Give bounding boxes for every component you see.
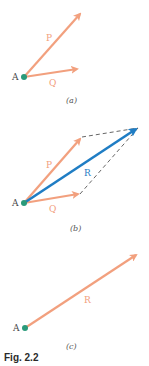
panel-b: A P Q R (b) <box>11 128 138 233</box>
point-a-dot <box>21 200 27 206</box>
point-a-label: A <box>11 198 19 208</box>
panel-a: A P Q (a) <box>11 14 80 105</box>
vector-addition-figure: A P Q (a) A P Q R (b) A R (c) <box>0 0 149 366</box>
vector-q-arrow <box>24 69 77 77</box>
vector-q-label: Q <box>49 78 56 88</box>
panel-a-sublabel: (a) <box>66 96 77 105</box>
vector-p-arrow <box>24 14 80 77</box>
point-a-label: A <box>11 72 19 82</box>
vector-q-label: Q <box>49 204 56 214</box>
vector-r-label: R <box>84 168 91 178</box>
panel-c-sublabel: (c) <box>66 342 77 351</box>
vector-p-label: P <box>46 33 52 43</box>
point-a-label: A <box>12 323 20 333</box>
vector-p-label: P <box>46 160 52 170</box>
panel-c: A R (c) <box>12 255 136 351</box>
panel-b-sublabel: (b) <box>70 224 81 233</box>
point-a-dot <box>22 325 28 331</box>
figure-caption: Fig. 2.2 <box>4 352 38 363</box>
vector-r-arrow <box>25 255 136 328</box>
point-a-dot <box>21 74 27 80</box>
vector-r-label: R <box>84 295 91 305</box>
